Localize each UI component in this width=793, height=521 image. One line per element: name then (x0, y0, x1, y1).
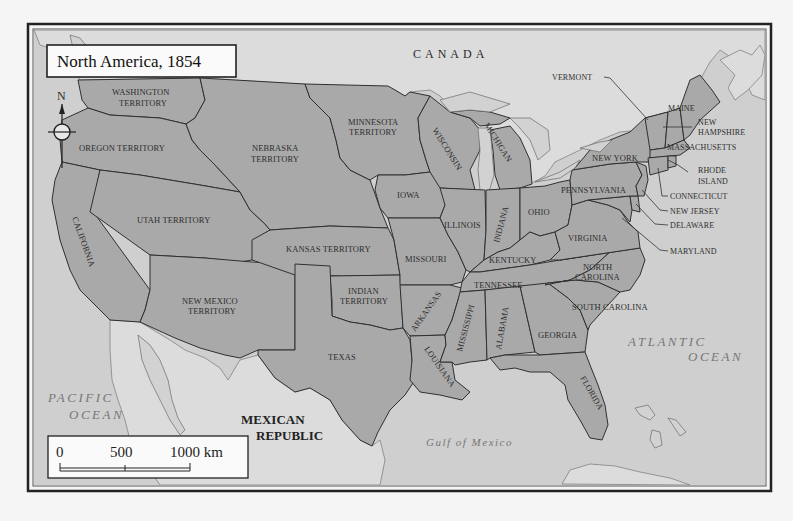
label-iowa: IOWA (397, 190, 420, 200)
label-utah-territory: UTAH TERRITORY (137, 215, 210, 225)
label-illinois: ILLINOIS (444, 220, 481, 230)
svg-text:ISLAND: ISLAND (698, 177, 728, 186)
svg-text:1000 km: 1000 km (170, 444, 223, 460)
label-delaware: DELAWARE (670, 221, 714, 230)
label-new-hampshire: NEW (698, 118, 717, 127)
label-canada: CANADA (413, 47, 488, 61)
label-kansas-territory: KANSAS TERRITORY (286, 244, 371, 254)
label-indian-territory: INDIAN (348, 286, 379, 296)
region-delaware (630, 196, 640, 212)
label-gulf-of-mexico: Gulf of Mexico (426, 436, 513, 448)
title-box: North America, 1854 (47, 45, 236, 77)
label-washington-territory: WASHINGTON (112, 87, 170, 97)
svg-text:CAROLINA: CAROLINA (575, 272, 620, 282)
scale-bar: 0 500 1000 km (48, 436, 248, 478)
svg-text:N: N (57, 89, 66, 103)
label-new-jersey: NEW JERSEY (670, 207, 720, 216)
label-texas: TEXAS (328, 352, 356, 362)
label-minnesota-territory: MINNESOTA (348, 117, 399, 127)
label-mexican-republic: MEXICAN (241, 412, 305, 427)
label-nebraska-territory: NEBRASKA (252, 143, 299, 153)
svg-text:REPUBLIC: REPUBLIC (256, 428, 323, 443)
label-new-mexico-territory: NEW MEXICO (182, 296, 238, 306)
label-maryland: MARYLAND (670, 247, 717, 256)
label-vermont: VERMONT (552, 73, 592, 82)
svg-text:TERRITORY: TERRITORY (188, 306, 236, 316)
svg-text:TERRITORY: TERRITORY (349, 127, 397, 137)
label-new-york: NEW YORK (592, 153, 639, 163)
svg-text:TERRITORY: TERRITORY (340, 296, 388, 306)
svg-text:OCEAN: OCEAN (69, 407, 124, 422)
label-south-carolina: SOUTH CAROLINA (572, 302, 649, 312)
label-georgia: GEORGIA (538, 330, 578, 340)
label-massachusetts: MASSACHUSETTS (667, 143, 736, 152)
svg-text:TERRITORY: TERRITORY (119, 98, 167, 108)
label-pacific-ocean: PACIFIC (47, 390, 114, 405)
svg-text:500: 500 (110, 444, 133, 460)
label-pennsylvania: PENNSYLVANIA (561, 185, 627, 195)
label-atlantic-ocean: ATLANTIC (627, 334, 707, 349)
map-title: North America, 1854 (57, 52, 201, 71)
label-missouri: MISSOURI (405, 254, 446, 264)
svg-text:TERRITORY: TERRITORY (251, 154, 299, 164)
label-connecticut: CONNECTICUT (670, 192, 728, 201)
label-kentucky: KENTUCKY (489, 255, 537, 265)
label-maine: MAINE (668, 104, 695, 113)
label-virginia: VIRGINIA (568, 233, 608, 243)
svg-text:0: 0 (56, 444, 64, 460)
label-ohio: OHIO (528, 207, 550, 217)
label-oregon-territory: OREGON TERRITORY (79, 143, 165, 153)
label-tennessee: TENNESSEE (474, 280, 523, 290)
label-north-carolina: NORTH (583, 262, 612, 272)
svg-text:OCEAN: OCEAN (688, 349, 743, 364)
svg-text:HAMPSHIRE: HAMPSHIRE (698, 128, 745, 137)
historical-map: North America, 1854 N CANADA WASHINGTON … (0, 0, 793, 521)
label-rhode-island: RHODE (698, 166, 726, 175)
